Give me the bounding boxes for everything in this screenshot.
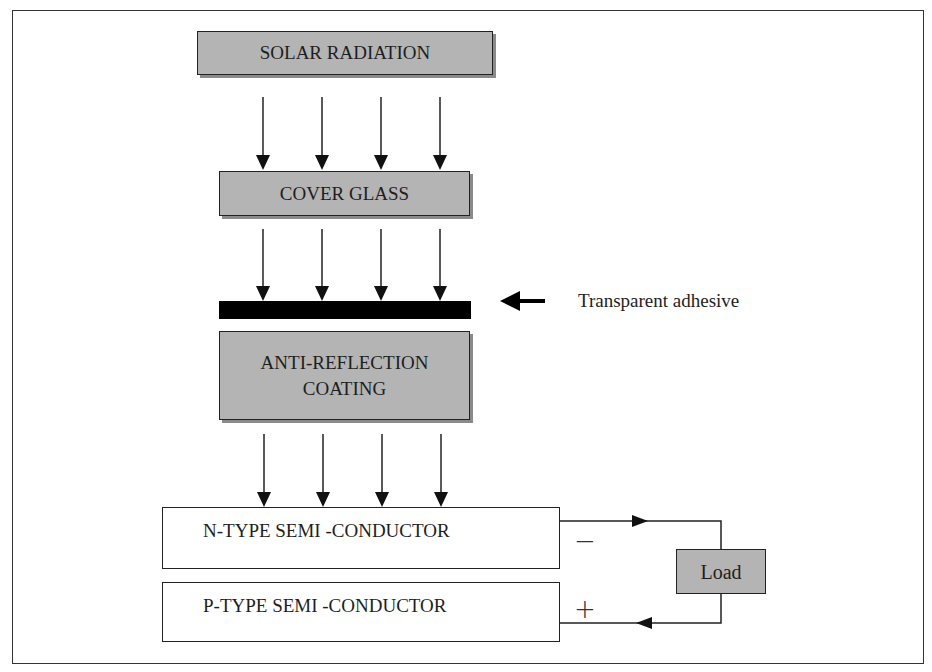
transparent-adhesive-label: Transparent adhesive — [578, 290, 739, 312]
load-box: Load — [676, 549, 766, 594]
load-label: Load — [700, 559, 741, 585]
n-type-label: N-TYPE SEMI -CONDUCTOR — [203, 520, 450, 542]
cover-glass-box: COVER GLASS — [219, 171, 470, 216]
anti-reflection-coating-box: ANTI-REFLECTION COATING — [219, 331, 470, 420]
anti-reflection-label-line2: COATING — [303, 376, 386, 402]
n-type-semiconductor-box: N-TYPE SEMI -CONDUCTOR — [162, 507, 560, 569]
anti-reflection-label-line1: ANTI-REFLECTION — [261, 350, 429, 376]
positive-terminal-sign: + — [574, 594, 596, 624]
p-type-label: P-TYPE SEMI -CONDUCTOR — [203, 595, 447, 617]
cover-glass-label: COVER GLASS — [280, 181, 409, 207]
p-type-semiconductor-box: P-TYPE SEMI -CONDUCTOR — [162, 582, 560, 642]
negative-terminal-sign: − — [574, 526, 596, 556]
solar-radiation-box: SOLAR RADIATION — [197, 31, 493, 75]
solar-radiation-label: SOLAR RADIATION — [260, 40, 430, 66]
transparent-adhesive-bar — [219, 301, 471, 319]
